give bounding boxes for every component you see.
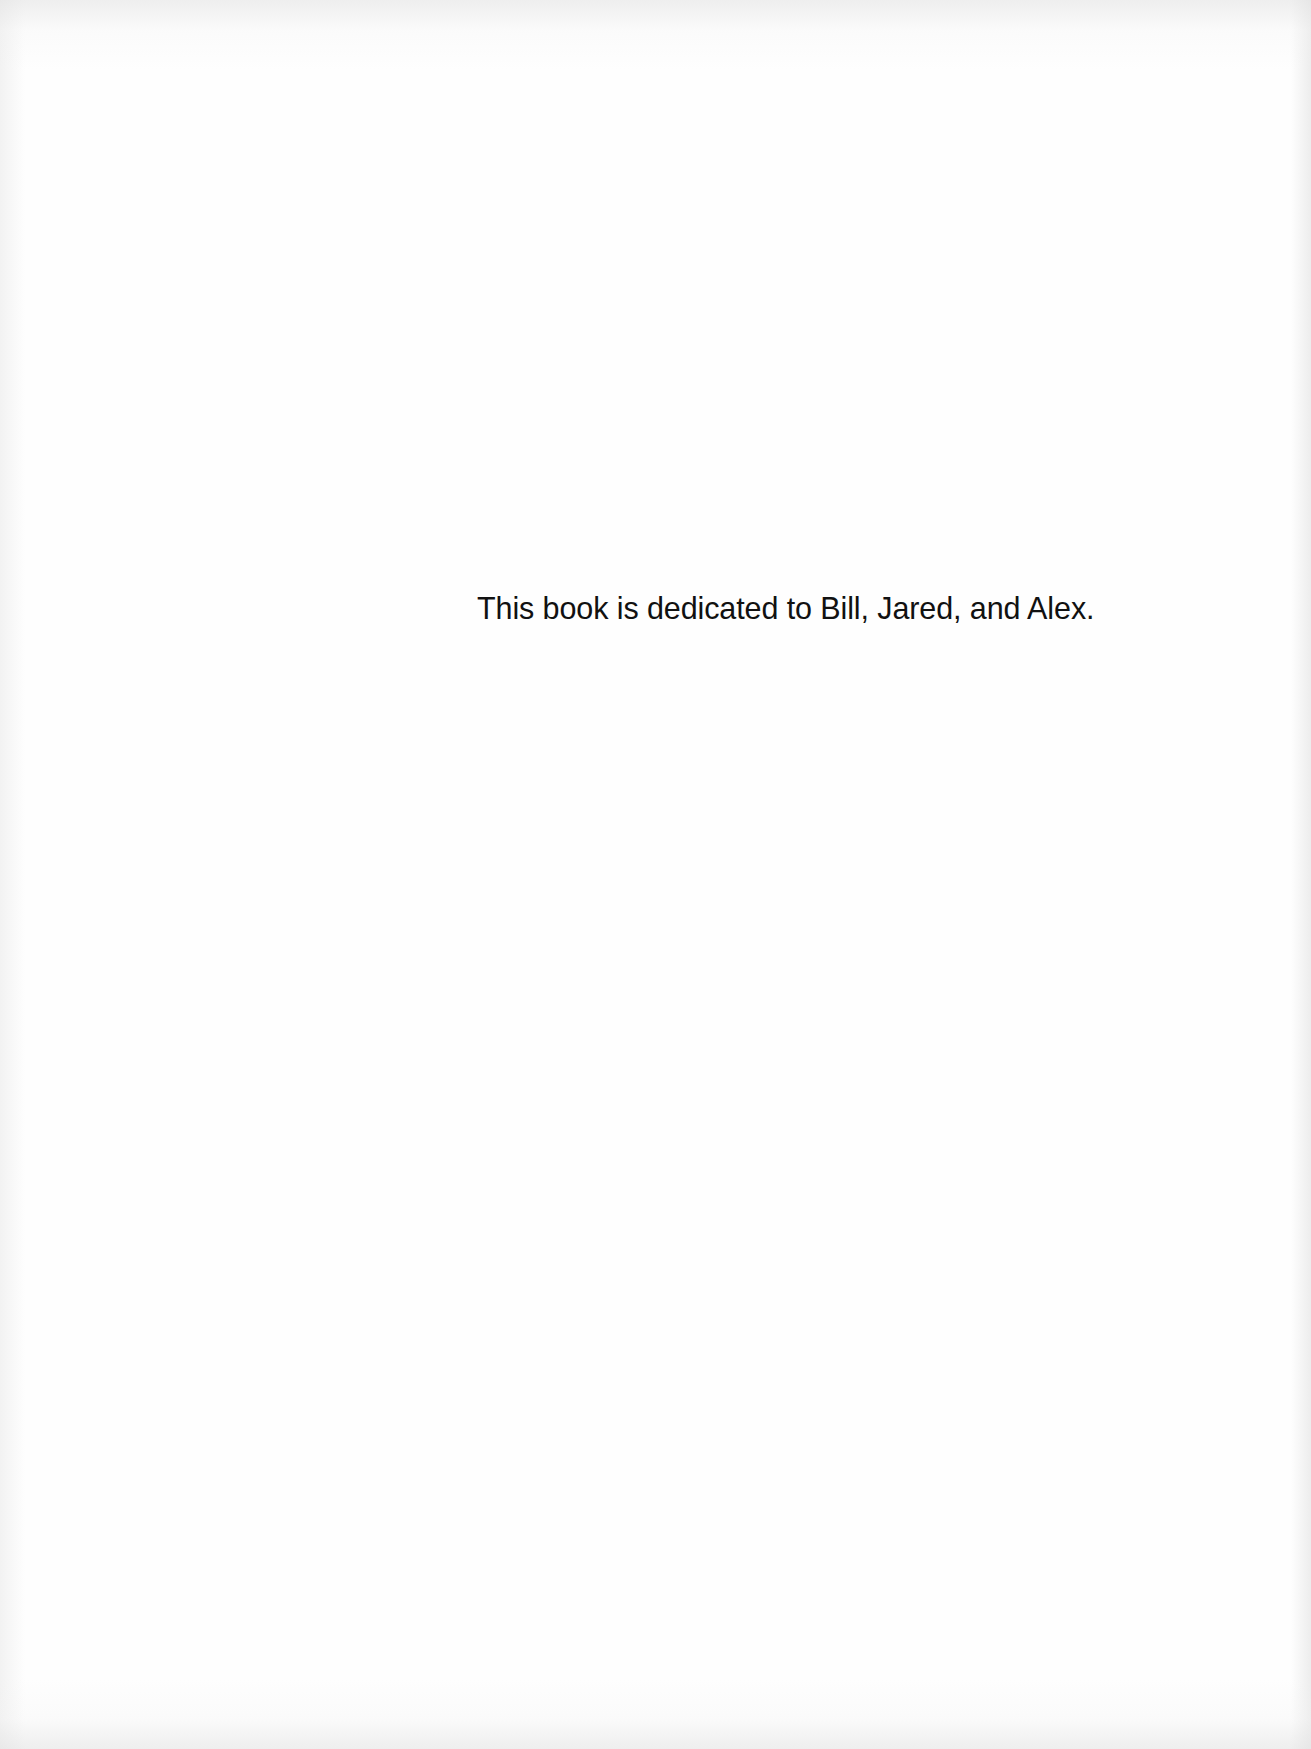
dedication-text: This book is dedicated to Bill, Jared, a… xyxy=(477,590,1094,626)
book-page: This book is dedicated to Bill, Jared, a… xyxy=(0,0,1311,1749)
